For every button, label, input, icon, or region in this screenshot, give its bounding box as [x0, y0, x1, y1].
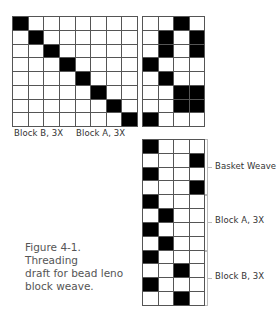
- empty-cell: [44, 58, 59, 71]
- empty-cell: [44, 72, 59, 85]
- empty-cell: [13, 113, 28, 126]
- filled-cell: [29, 31, 44, 44]
- empty-cell: [122, 58, 137, 71]
- empty-cell: [143, 45, 158, 58]
- empty-cell: [190, 209, 205, 222]
- filled-cell: [143, 251, 158, 264]
- empty-cell: [60, 113, 75, 126]
- empty-cell: [44, 100, 59, 113]
- filled-cell: [143, 223, 158, 236]
- empty-cell: [190, 223, 205, 236]
- filled-cell: [174, 264, 189, 277]
- empty-cell: [174, 31, 189, 44]
- empty-cell: [29, 113, 44, 126]
- filled-cell: [143, 140, 158, 153]
- empty-cell: [190, 72, 205, 85]
- filled-cell: [143, 278, 158, 291]
- empty-cell: [174, 45, 189, 58]
- empty-cell: [107, 86, 122, 99]
- empty-cell: [107, 58, 122, 71]
- filled-cell: [174, 100, 189, 113]
- bracket-block-a: [205, 195, 208, 251]
- empty-cell: [190, 17, 205, 30]
- filled-cell: [143, 58, 158, 71]
- label-block-b-threading: Block B, 3X: [215, 271, 264, 281]
- filled-cell: [143, 168, 158, 181]
- empty-cell: [91, 100, 106, 113]
- empty-cell: [13, 86, 28, 99]
- filled-cell: [159, 45, 174, 58]
- empty-cell: [143, 86, 158, 99]
- empty-cell: [143, 72, 158, 85]
- empty-cell: [60, 72, 75, 85]
- empty-cell: [122, 86, 137, 99]
- empty-cell: [29, 100, 44, 113]
- empty-cell: [143, 181, 158, 194]
- empty-cell: [143, 31, 158, 44]
- empty-cell: [174, 251, 189, 264]
- empty-cell: [29, 86, 44, 99]
- caption-line: block weave.: [25, 280, 135, 293]
- empty-cell: [159, 181, 174, 194]
- bracket-tick: [208, 222, 212, 223]
- filled-cell: [159, 237, 174, 250]
- empty-cell: [91, 45, 106, 58]
- empty-cell: [159, 264, 174, 277]
- empty-cell: [60, 45, 75, 58]
- label-block-b-treadling: Block B, 3X: [14, 128, 63, 138]
- empty-cell: [44, 31, 59, 44]
- empty-cell: [107, 17, 122, 30]
- filled-cell: [174, 86, 189, 99]
- filled-cell: [174, 17, 189, 30]
- empty-cell: [44, 17, 59, 30]
- filled-cell: [143, 113, 158, 126]
- empty-cell: [107, 113, 122, 126]
- empty-cell: [107, 31, 122, 44]
- caption-line: draft for bead leno: [25, 267, 135, 280]
- empty-cell: [159, 113, 174, 126]
- empty-cell: [91, 58, 106, 71]
- tieup-grid: [142, 16, 205, 127]
- empty-cell: [143, 209, 158, 222]
- filled-cell: [190, 100, 205, 113]
- empty-cell: [190, 278, 205, 291]
- empty-cell: [91, 113, 106, 126]
- empty-cell: [174, 237, 189, 250]
- empty-cell: [91, 17, 106, 30]
- label-basket-weave: Basket Weave: [215, 161, 276, 171]
- empty-cell: [76, 86, 91, 99]
- empty-cell: [107, 72, 122, 85]
- empty-cell: [143, 292, 158, 305]
- empty-cell: [76, 31, 91, 44]
- empty-cell: [174, 72, 189, 85]
- empty-cell: [159, 17, 174, 30]
- empty-cell: [76, 58, 91, 71]
- filled-cell: [159, 209, 174, 222]
- empty-cell: [13, 58, 28, 71]
- empty-cell: [13, 45, 28, 58]
- empty-cell: [29, 17, 44, 30]
- bracket-tick: [208, 278, 212, 279]
- empty-cell: [159, 58, 174, 71]
- empty-cell: [29, 45, 44, 58]
- caption-line: Figure 4-1. Threading: [25, 241, 135, 267]
- filled-cell: [159, 72, 174, 85]
- empty-cell: [122, 17, 137, 30]
- empty-cell: [174, 223, 189, 236]
- empty-cell: [44, 113, 59, 126]
- empty-cell: [13, 72, 28, 85]
- empty-cell: [76, 45, 91, 58]
- figure-caption: Figure 4-1. Threading draft for bead len…: [25, 241, 135, 293]
- filled-cell: [190, 86, 205, 99]
- empty-cell: [122, 72, 137, 85]
- empty-cell: [174, 195, 189, 208]
- empty-cell: [174, 113, 189, 126]
- empty-cell: [60, 100, 75, 113]
- empty-cell: [190, 168, 205, 181]
- filled-cell: [190, 181, 205, 194]
- empty-cell: [60, 86, 75, 99]
- empty-cell: [159, 278, 174, 291]
- filled-cell: [76, 72, 91, 85]
- filled-cell: [190, 154, 205, 167]
- empty-cell: [174, 168, 189, 181]
